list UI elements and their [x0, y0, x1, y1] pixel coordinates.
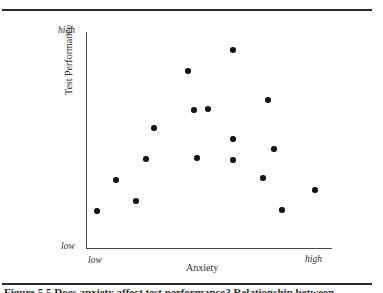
scatter-point	[271, 146, 276, 151]
scatter-point	[113, 177, 118, 182]
figure-bottom-rule	[2, 283, 372, 285]
x-axis-low-label: low	[88, 256, 102, 266]
figure-container: high low low high Anxiety Test Performan…	[0, 0, 383, 293]
y-axis-title: Test Performance	[64, 15, 74, 95]
y-axis-low-label: low	[61, 242, 75, 252]
scatter-point	[230, 157, 235, 162]
figure-caption: Figure 5.5 Does anxiety affect test perf…	[4, 286, 379, 293]
scatter-point	[194, 155, 199, 160]
scatter-point	[265, 97, 270, 102]
scatter-point	[191, 107, 196, 112]
scatter-point	[143, 156, 148, 161]
x-axis-line	[86, 248, 332, 249]
x-axis-high-label: high	[305, 255, 322, 265]
figure-top-rule	[2, 9, 372, 11]
scatter-point	[205, 106, 210, 111]
scatter-point	[230, 47, 235, 52]
scatter-point	[230, 136, 235, 141]
x-axis-title: Anxiety	[186, 263, 218, 273]
scatter-point	[133, 198, 138, 203]
scatter-point	[151, 125, 156, 130]
scatter-plot-area	[86, 33, 332, 248]
scatter-point	[260, 175, 265, 180]
scatter-point	[279, 207, 284, 212]
scatter-point	[312, 187, 317, 192]
scatter-point	[185, 68, 190, 73]
scatter-point	[94, 208, 99, 213]
